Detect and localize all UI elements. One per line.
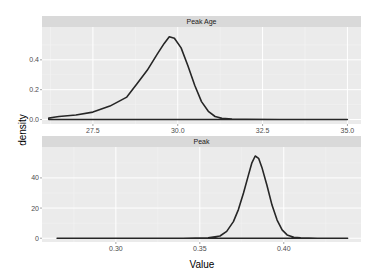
y-tick-label: 0: [35, 235, 39, 242]
x-tick-label: 27.5: [86, 127, 100, 134]
x-tick-label: 35.0: [341, 127, 355, 134]
x-tick-label: 0.40: [277, 245, 291, 252]
x-tick-label: 0.30: [109, 245, 123, 252]
facet-strip-label: Peak: [194, 138, 210, 145]
y-tick-label: 20: [31, 205, 39, 212]
x-tick-label: 0.35: [193, 245, 207, 252]
panel-background: [42, 147, 361, 242]
x-axis-title: Value: [190, 259, 215, 270]
y-tick-label: 0.2: [29, 86, 39, 93]
panel-peak: Peak0.300.350.4002040: [31, 136, 361, 252]
x-tick-label: 30.0: [171, 127, 185, 134]
y-axis-title: density: [17, 114, 28, 146]
x-tick-label: 32.5: [256, 127, 270, 134]
panel-peak-age: Peak Age27.530.032.535.00.00.20.4: [29, 16, 361, 134]
y-tick-label: 0.4: [29, 56, 39, 63]
facet-strip-label: Peak Age: [187, 18, 217, 26]
panel-background: [42, 27, 361, 124]
density-facet-chart: Peak Age27.530.032.535.00.00.20.4 Peak0.…: [0, 0, 377, 273]
y-tick-label: 0.0: [29, 116, 39, 123]
y-tick-label: 40: [31, 174, 39, 181]
